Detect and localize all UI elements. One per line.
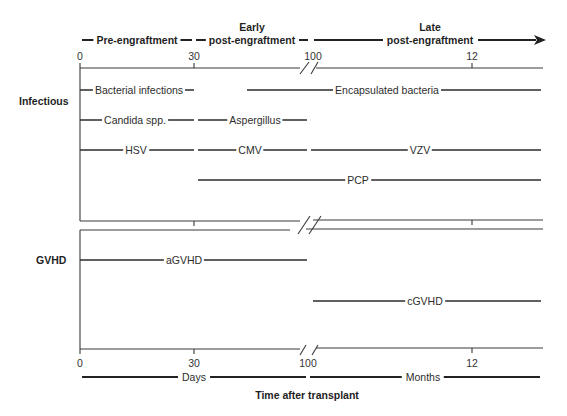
tick-0-bottom: 0	[77, 357, 83, 369]
bar-bacterial-infections: Bacterial infections	[93, 84, 185, 96]
tick-30-bottom: 30	[188, 357, 200, 369]
bar-vzv: VZV	[408, 144, 432, 156]
bar-hsv: HSV	[123, 144, 149, 156]
bar-agvhd: aGVHD	[164, 254, 204, 266]
unit-days: Days	[178, 371, 210, 383]
category-gvhd: GVHD	[36, 254, 66, 266]
phase-late-post-engraftment: Late post-engraftment	[384, 21, 476, 47]
axis-title: Time after transplant	[253, 389, 361, 401]
tick-30-top: 30	[188, 50, 200, 62]
bar-cgvhd: cGVHD	[405, 295, 445, 307]
category-infectious: Infectious	[19, 95, 69, 107]
tick-0-top: 0	[77, 50, 83, 62]
phase-label-line1: Early	[206, 21, 298, 34]
phase-label-line1: Late	[384, 21, 476, 34]
tick-12-bottom: 12	[466, 357, 478, 369]
phase-early-post-engraftment: Early post-engraftment	[206, 21, 298, 47]
bar-cmv: CMV	[236, 144, 263, 156]
tick-12-top: 12	[466, 50, 478, 62]
tick-100-bottom: 100	[299, 357, 317, 369]
unit-months: Months	[402, 371, 444, 383]
phase-label-line2: post-engraftment	[384, 34, 476, 47]
phase-pre-engraftment: Pre-engraftment	[93, 34, 180, 47]
timeline-graphics	[0, 0, 567, 416]
phase-label: Pre-engraftment	[93, 34, 180, 46]
bar-candida: Candida spp.	[102, 114, 168, 126]
tick-100-top: 100	[304, 50, 322, 62]
bar-encapsulated-bacteria: Encapsulated bacteria	[333, 84, 441, 96]
phase-label-line2: post-engraftment	[206, 34, 298, 47]
bar-aspergillus: Aspergillus	[227, 114, 282, 126]
bar-pcp: PCP	[345, 174, 371, 186]
